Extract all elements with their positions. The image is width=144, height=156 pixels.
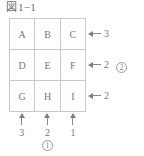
figure-kanji-icon: 図 bbox=[6, 2, 17, 13]
column-annotation-1: 3 bbox=[9, 113, 35, 138]
column-value-3: 1 bbox=[70, 127, 75, 138]
grid-cell-f: F bbox=[61, 50, 86, 81]
column-value-2: 2 bbox=[45, 127, 50, 138]
row-marker-wrapper: 2 bbox=[116, 56, 127, 74]
grid-cell-g: G bbox=[10, 81, 35, 112]
arrow-up-icon bbox=[18, 113, 25, 125]
row-value-1: 3 bbox=[104, 28, 109, 39]
grid-cell-c: C bbox=[61, 19, 86, 50]
row-annotation-3: 2 bbox=[88, 80, 109, 111]
arrow-up-icon bbox=[69, 113, 76, 125]
row-annotation-1: 3 bbox=[88, 18, 109, 49]
grid-cell-b: B bbox=[35, 19, 60, 50]
grid-cell-e: E bbox=[35, 50, 60, 81]
grid-cell-d: D bbox=[10, 50, 35, 81]
figure-title: 図 1−1 bbox=[6, 0, 36, 15]
column-value-1: 3 bbox=[19, 127, 24, 138]
figure-number-label: 1−1 bbox=[18, 2, 36, 13]
column-annotation-2: 2 bbox=[35, 113, 61, 138]
arrow-left-icon bbox=[88, 61, 101, 68]
grid-cell-i: I bbox=[61, 81, 86, 112]
circled-number-marker-1: 1 bbox=[42, 140, 53, 151]
row-value-2: 2 bbox=[104, 59, 109, 70]
arrow-up-icon bbox=[44, 113, 51, 125]
row-annotation-2: 2 2 bbox=[88, 49, 127, 80]
column-annotation-3: 1 bbox=[60, 113, 86, 138]
row-value-3: 2 bbox=[104, 90, 109, 101]
arrow-left-icon bbox=[88, 30, 101, 37]
arrow-left-icon bbox=[88, 92, 101, 99]
grid-table: A B C D E F G H I bbox=[9, 18, 86, 112]
column-marker-wrapper: 1 bbox=[35, 140, 61, 151]
grid-cell-h: H bbox=[35, 81, 60, 112]
circled-number-marker-2: 2 bbox=[116, 62, 127, 73]
grid-cell-a: A bbox=[10, 19, 35, 50]
